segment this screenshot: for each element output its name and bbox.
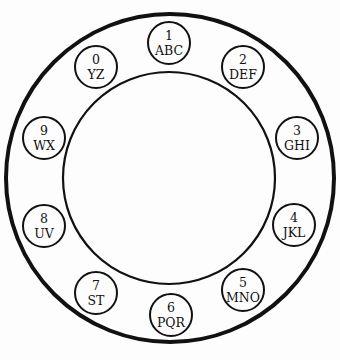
key-letters: UV: [34, 226, 55, 241]
key-digit: 0: [92, 52, 100, 67]
dial-keys: 1ABC2DEF3GHI4JKL5MNO6PQR7ST8UV9WX0YZ: [23, 22, 318, 336]
dial-key-1: 1ABC: [148, 22, 190, 64]
key-digit: 8: [40, 211, 48, 226]
dial-key-0: 0YZ: [75, 46, 117, 88]
key-letters: PQR: [157, 315, 186, 330]
dial-key-2: 2DEF: [222, 46, 264, 88]
key-digit: 7: [92, 278, 100, 293]
dial-key-7: 7ST: [75, 272, 117, 314]
key-letters: MNO: [226, 290, 260, 305]
dial-key-5: 5MNO: [222, 269, 264, 311]
key-letters: ABC: [154, 43, 183, 58]
key-letters: JKL: [281, 225, 306, 240]
key-letters: GHI: [284, 138, 310, 153]
dial-key-6: 6PQR: [150, 294, 192, 336]
key-digit: 2: [239, 52, 247, 67]
key-letters: DEF: [229, 67, 257, 82]
key-letters: WX: [33, 138, 55, 153]
dial-key-3: 3GHI: [276, 117, 318, 159]
key-digit: 3: [293, 123, 301, 138]
dial-key-8: 8UV: [23, 205, 65, 247]
key-digit: 6: [167, 300, 175, 315]
key-digit: 4: [290, 210, 298, 225]
key-digit: 9: [40, 123, 48, 138]
key-digit: 1: [165, 28, 173, 43]
key-digit: 5: [239, 275, 247, 290]
dial-key-4: 4JKL: [273, 204, 315, 246]
key-letters: ST: [88, 293, 106, 308]
inner-ring: [63, 72, 275, 284]
key-letters: YZ: [87, 67, 105, 82]
phone-dial-diagram: 1ABC2DEF3GHI4JKL5MNO6PQR7ST8UV9WX0YZ: [0, 0, 340, 360]
dial-key-9: 9WX: [23, 117, 65, 159]
